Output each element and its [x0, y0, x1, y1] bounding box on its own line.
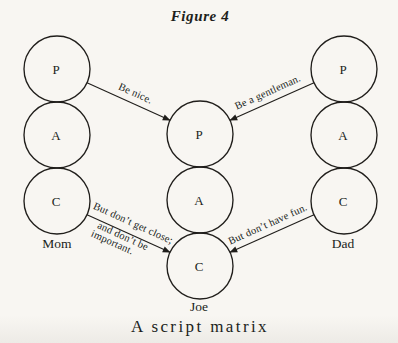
dont-have-fun-label: But don’t have fun. — [227, 201, 309, 246]
dad-child-message: But don’t have fun. — [227, 201, 309, 246]
mom-name-label: Mom — [42, 236, 72, 251]
mom-column: P A C Mom — [24, 36, 90, 251]
mom-parent-message: Be nice. — [117, 81, 154, 106]
dad-child-letter: C — [339, 194, 348, 209]
dad-name-label: Dad — [332, 236, 355, 251]
be-nice-label: Be nice. — [117, 81, 154, 106]
book-page: Figure 4 P A C Mom P A C Dad P A — [0, 0, 398, 343]
dad-parent-letter: P — [339, 62, 346, 77]
mom-parent-letter: P — [52, 62, 59, 77]
be-a-gentleman-label: Be a gentleman. — [233, 72, 302, 111]
joe-name-label: Joe — [190, 299, 208, 314]
dad-parent-message: Be a gentleman. — [233, 72, 302, 111]
dad-adult-letter: A — [338, 128, 348, 143]
mom-adult-letter: A — [51, 128, 61, 143]
dad-column: P A C Dad — [311, 36, 377, 251]
figure-title: Figure 4 — [170, 8, 230, 24]
script-matrix-diagram: Figure 4 P A C Mom P A C Dad P A — [0, 0, 398, 343]
figure-caption: A script matrix — [131, 317, 269, 336]
joe-child-letter: C — [195, 259, 204, 274]
mom-child-message: But don’t get close; and don’t be import… — [81, 200, 175, 269]
mom-child-letter: C — [52, 194, 61, 209]
joe-column: P A C Joe — [167, 101, 233, 314]
joe-parent-letter: P — [195, 127, 202, 142]
joe-adult-letter: A — [194, 193, 204, 208]
